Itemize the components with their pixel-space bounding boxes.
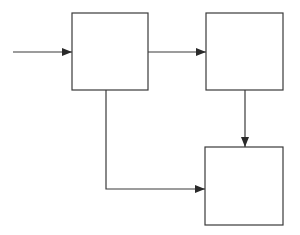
block-diagram xyxy=(0,0,300,235)
block-b xyxy=(206,13,283,90)
edge-a-to-c xyxy=(106,90,205,189)
block-c xyxy=(205,147,283,225)
diagram-canvas xyxy=(0,0,300,235)
block-a xyxy=(72,13,148,90)
